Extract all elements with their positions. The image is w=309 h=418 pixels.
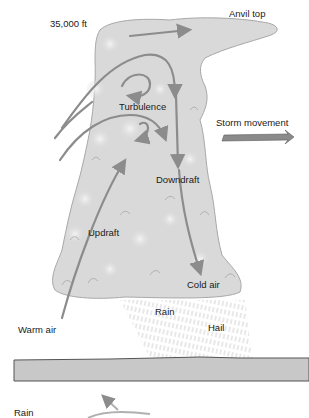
downdraft-label: Downdraft: [156, 175, 199, 185]
rain-label: Rain: [155, 307, 175, 317]
ground: [14, 357, 309, 381]
updraft-label: Updraft: [88, 228, 119, 238]
warm-air-label: Warm air: [18, 325, 56, 335]
warm-air-entry-arrow: [55, 102, 92, 138]
thunderstorm-diagram: 35,000 ft Anvil top Turbulence Storm mov…: [0, 0, 309, 418]
storm-movement-label: Storm movement: [216, 118, 288, 128]
hail-label: Hail: [208, 323, 224, 333]
anvil-top-label: Anvil top: [229, 9, 265, 19]
turbulence-label: Turbulence: [119, 102, 166, 112]
diagram-canvas: [0, 0, 309, 418]
cold-air-label: Cold air: [187, 280, 220, 290]
altitude-label: 35,000 ft: [50, 19, 87, 29]
precipitation: [120, 300, 252, 358]
bottom-partial-arrow: [88, 397, 150, 418]
storm-movement-arrow: [222, 130, 294, 144]
rain-bottom-label: Rain: [14, 408, 34, 418]
